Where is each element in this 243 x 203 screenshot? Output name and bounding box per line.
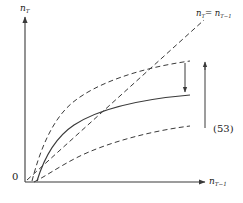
y-axis-label-subscript: T [26,8,30,14]
plot-svg [0,0,243,203]
curve-lower-dashed [34,126,190,182]
equation-reference-label: (53) [213,124,234,134]
diagonal-line-label: nT= nT−1 [196,9,232,18]
y-axis-label-base: n [20,3,26,13]
diagonal-label-rhs-subscript: T−1 [220,13,231,19]
diagonal-label-equals: = [205,8,212,18]
diagonal-label-lhs-subscript: T [201,13,205,19]
origin-label: 0 [12,172,18,182]
x-axis-label-subscript: T−1 [215,181,227,187]
diagonal-45-line [27,20,204,180]
curve-middle-solid [37,95,190,181]
curve-upper-dashed [32,61,190,181]
x-axis-label: nT−1 [209,177,227,186]
x-axis-label-base: n [209,176,215,186]
y-axis-label: nT [20,4,30,13]
figure-container: nT nT−1 0 nT= nT−1 (53) [0,0,243,203]
